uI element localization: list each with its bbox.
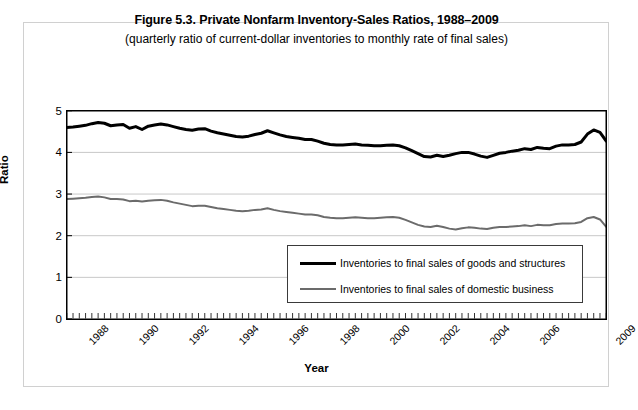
- y-tick-label: 1: [48, 271, 62, 283]
- chart-legend: Inventories to final sales of goods and …: [287, 245, 583, 303]
- x-axis-title: Year: [0, 362, 633, 374]
- legend-item: Inventories to final sales of goods and …: [300, 256, 565, 270]
- x-tick-label: 1994: [236, 322, 261, 347]
- x-tick-label: 2004: [487, 322, 512, 347]
- y-tick-label: 4: [48, 146, 62, 158]
- x-tick-label: 2000: [387, 322, 412, 347]
- x-tick-label: 1990: [136, 322, 161, 347]
- legend-swatch-goods-structures: [300, 262, 336, 265]
- y-axis-tick-labels: 012345: [44, 110, 62, 320]
- chart-title: Figure 5.3. Private Nonfarm Inventory-Sa…: [0, 13, 633, 27]
- data-series-group: [67, 122, 607, 229]
- legend-item: Inventories to final sales of domestic b…: [300, 282, 554, 296]
- title-block: Figure 5.3. Private Nonfarm Inventory-Sa…: [0, 13, 633, 46]
- x-axis-tick-labels: 1988199019921994199619982000200220042006…: [66, 322, 607, 364]
- x-tick-label: 2006: [537, 322, 562, 347]
- y-tick-label: 2: [48, 230, 62, 242]
- x-tick-label: 1998: [337, 322, 362, 347]
- x-tick-label: 1996: [286, 322, 311, 347]
- y-tick-label: 5: [48, 105, 62, 117]
- y-tick-label: 0: [48, 313, 62, 325]
- x-tick-label: 1988: [86, 322, 111, 347]
- legend-label-domestic-business: Inventories to final sales of domestic b…: [340, 283, 554, 295]
- y-axis-title: Ratio: [0, 155, 10, 184]
- chart-subtitle: (quarterly ratio of current-dollar inven…: [0, 32, 633, 46]
- x-tick-label: 2009: [613, 322, 638, 347]
- x-tick-label: 2002: [437, 322, 462, 347]
- x-tick-label: 1992: [186, 322, 211, 347]
- y-tick-label: 3: [48, 188, 62, 200]
- legend-label-goods-structures: Inventories to final sales of goods and …: [340, 257, 565, 269]
- data-series-line: [67, 197, 607, 230]
- x-axis-tickmarks: [67, 313, 607, 319]
- legend-swatch-domestic-business: [300, 288, 336, 290]
